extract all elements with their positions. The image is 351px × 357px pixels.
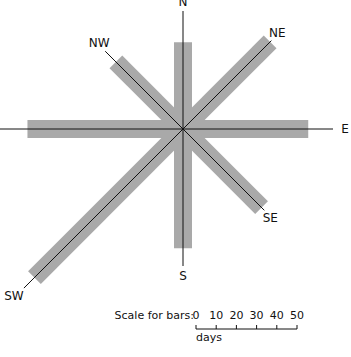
- axis-ne: [183, 41, 271, 129]
- scale-tick-label: 20: [229, 309, 243, 322]
- scale-tick-label: 10: [209, 309, 223, 322]
- scale-tick-label: 30: [250, 309, 264, 322]
- scale-tick-label: 0: [193, 309, 200, 322]
- wind-rose-chart: NNEESESSWWNW Scale for bars: 01020304050…: [0, 0, 351, 357]
- scale-bar: Scale for bars: 01020304050 days: [115, 309, 304, 344]
- label-se: SE: [263, 211, 278, 225]
- label-sw: SW: [4, 289, 24, 303]
- label-e: E: [341, 122, 349, 136]
- axis-se: [183, 129, 264, 210]
- scale-label: Scale for bars:: [115, 309, 194, 322]
- axis-nw: [105, 51, 183, 129]
- label-ne: NE: [269, 26, 286, 40]
- label-nw: NW: [89, 36, 110, 50]
- scale-tick-label: 50: [290, 309, 304, 322]
- label-n: N: [179, 0, 188, 9]
- axis-sw: [24, 129, 183, 288]
- scale-ticks: 01020304050: [193, 309, 305, 329]
- label-s: S: [179, 269, 187, 283]
- scale-tick-label: 40: [270, 309, 284, 322]
- scale-unit-label: days: [196, 331, 222, 344]
